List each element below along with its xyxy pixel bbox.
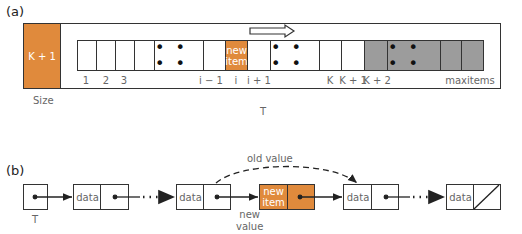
pointer-arrows	[0, 0, 522, 234]
